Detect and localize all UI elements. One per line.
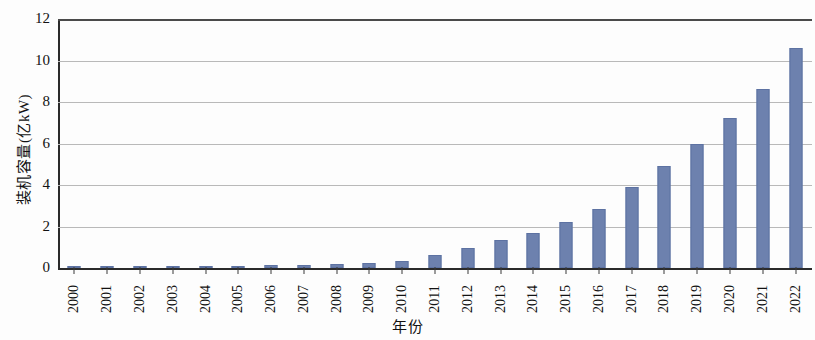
x-tick-label-text: 2005 — [231, 285, 245, 313]
x-axis-tick — [402, 267, 403, 274]
x-tick-label-text: 2013 — [494, 285, 508, 313]
x-tick-label: 2006 — [255, 274, 288, 306]
x-axis-tick — [467, 267, 468, 274]
bar[interactable] — [560, 222, 573, 268]
y-axis-tick-labels: 024681012 — [22, 0, 50, 340]
x-tick-label-text: 2001 — [100, 285, 114, 313]
x-tick-label-text: 2017 — [625, 285, 639, 313]
x-tick-label-text: 2002 — [133, 285, 147, 313]
x-tick-label: 2021 — [746, 274, 779, 306]
x-tick-label-text: 2009 — [362, 285, 376, 313]
bar[interactable] — [658, 166, 671, 268]
x-axis-tick — [631, 267, 632, 274]
bar-slot — [255, 19, 288, 268]
x-tick-label-text: 2015 — [559, 285, 573, 313]
bar[interactable] — [592, 209, 605, 268]
x-axis-tick — [74, 267, 75, 274]
x-tick-label-text: 2011 — [428, 285, 442, 312]
bar-slot — [222, 19, 255, 268]
x-tick-label-text: 2018 — [657, 285, 671, 313]
x-axis-tick — [795, 267, 796, 274]
x-axis-tick — [369, 267, 370, 274]
x-axis-tick — [500, 267, 501, 274]
bar[interactable] — [756, 89, 769, 268]
x-tick-label: 2019 — [681, 274, 714, 306]
x-tick-label: 2015 — [550, 274, 583, 306]
x-tick-label-text: 2004 — [199, 285, 213, 313]
x-axis-tick — [336, 267, 337, 274]
x-tick-label: 2012 — [451, 274, 484, 306]
bar-slot — [746, 19, 779, 268]
bar-slot — [681, 19, 714, 268]
x-tick-label: 2011 — [419, 274, 452, 306]
x-axis-tick — [730, 267, 731, 274]
x-axis-title: 年份 — [0, 315, 815, 336]
x-tick-label: 2017 — [615, 274, 648, 306]
y-tick-label: 10 — [24, 53, 50, 68]
bar[interactable] — [494, 240, 507, 268]
bar-slot — [91, 19, 124, 268]
x-tick-label-text: 2021 — [756, 285, 770, 313]
x-tick-label: 2008 — [320, 274, 353, 306]
x-axis-tick — [434, 267, 435, 274]
bar-slot — [287, 19, 320, 268]
bar-slot — [583, 19, 616, 268]
bar-slot — [189, 19, 222, 268]
y-tick-label: 0 — [24, 260, 50, 275]
bar-slot — [353, 19, 386, 268]
x-tick-label-text: 2006 — [264, 285, 278, 313]
x-tick-label-text: 2020 — [723, 285, 737, 313]
x-tick-label-text: 2019 — [690, 285, 704, 313]
bar[interactable] — [789, 48, 802, 268]
x-axis-tick — [107, 267, 108, 274]
x-tick-label: 2002 — [124, 274, 157, 306]
bar-slot — [386, 19, 419, 268]
x-tick-label-text: 2016 — [592, 285, 606, 313]
bar-slot — [419, 19, 452, 268]
x-tick-label: 2004 — [189, 274, 222, 306]
x-tick-label-text: 2007 — [297, 285, 311, 313]
x-axis-tick-labels: 2000200120022003200420052006200720082009… — [58, 274, 812, 318]
x-tick-label: 2001 — [91, 274, 124, 306]
bars-layer — [58, 19, 812, 268]
x-tick-label-text: 2010 — [395, 285, 409, 313]
x-axis-tick — [697, 267, 698, 274]
bar-chart: 装机容量(亿kW) 024681012 20002001200220032004… — [0, 0, 815, 340]
x-axis-tick — [271, 267, 272, 274]
x-tick-label: 2013 — [484, 274, 517, 306]
x-axis-tick — [664, 267, 665, 274]
x-axis-tick — [139, 267, 140, 274]
x-axis-tick — [762, 267, 763, 274]
bar-slot — [517, 19, 550, 268]
bar[interactable] — [724, 118, 737, 268]
bar-slot — [320, 19, 353, 268]
x-tick-label: 2016 — [583, 274, 616, 306]
y-tick-label: 2 — [24, 219, 50, 234]
plot-area — [58, 19, 812, 268]
bar[interactable] — [625, 187, 638, 268]
x-tick-label: 2022 — [779, 274, 812, 306]
x-tick-label: 2007 — [287, 274, 320, 306]
x-tick-label: 2009 — [353, 274, 386, 306]
x-axis-tick — [172, 267, 173, 274]
bar[interactable] — [691, 144, 704, 269]
y-tick-label: 4 — [24, 177, 50, 192]
bar-slot — [124, 19, 157, 268]
x-tick-label-text: 2003 — [166, 285, 180, 313]
bar-slot — [484, 19, 517, 268]
x-axis-tick — [566, 267, 567, 274]
bar-slot — [615, 19, 648, 268]
x-tick-label: 2005 — [222, 274, 255, 306]
x-axis-tick — [598, 267, 599, 274]
x-tick-label: 2014 — [517, 274, 550, 306]
bar-slot — [779, 19, 812, 268]
x-tick-label-text: 2000 — [67, 285, 81, 313]
bar[interactable] — [461, 248, 474, 268]
bar-slot — [451, 19, 484, 268]
x-tick-label-text: 2022 — [789, 285, 803, 313]
x-tick-label: 2000 — [58, 274, 91, 306]
x-tick-label: 2018 — [648, 274, 681, 306]
x-axis-tick — [533, 267, 534, 274]
y-tick-label: 8 — [24, 94, 50, 109]
bar[interactable] — [527, 233, 540, 268]
